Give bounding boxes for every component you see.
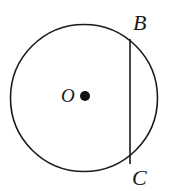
label-point-c: C [132, 167, 147, 189]
label-center-o: O [61, 86, 75, 105]
label-point-b: B [133, 12, 146, 34]
center-point-dot [80, 91, 90, 101]
geometry-figure: O B C [0, 0, 173, 191]
circle-diagram-canvas [0, 0, 173, 191]
